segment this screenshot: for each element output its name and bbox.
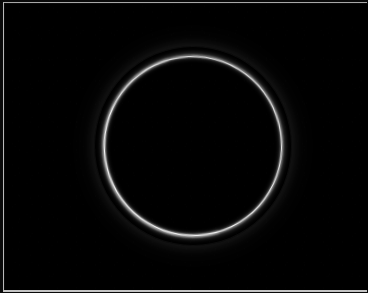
- ring-mid-bloom: [103, 55, 283, 237]
- ring-outer-bloom: [102, 54, 284, 238]
- light-ring: [99, 51, 287, 240]
- ring-stage: [5, 4, 368, 290]
- photo-frame: A thin, bright white glowing circular ri…: [0, 0, 368, 293]
- black-background-field: [5, 4, 368, 290]
- ring-outer-halo: [94, 46, 292, 246]
- ring-dim-arc: [81, 33, 306, 259]
- ring-bright-arc: [71, 23, 315, 268]
